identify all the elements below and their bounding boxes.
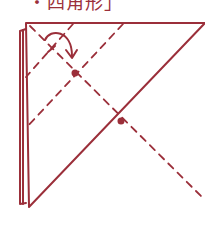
reference-dot-upper bbox=[72, 70, 79, 77]
fold-diagram bbox=[0, 0, 205, 232]
reference-dot-lower bbox=[118, 118, 125, 125]
diagonal-fold-line bbox=[30, 26, 205, 200]
folded-triangle bbox=[26, 23, 205, 207]
